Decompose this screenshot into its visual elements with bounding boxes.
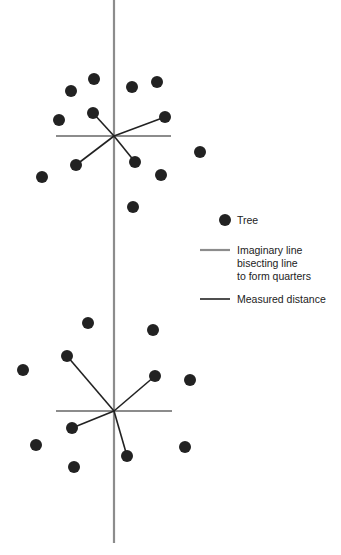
sampling-points <box>17 73 206 473</box>
measured-distance-line <box>72 411 114 428</box>
legend-bisecting-label-3: to form quarters <box>237 270 311 282</box>
tree-icon <box>36 171 48 183</box>
tree-icon <box>82 317 94 329</box>
point-centered-quarter-diagram: Tree Imaginary line bisecting line to fo… <box>0 0 341 555</box>
tree-icon <box>30 439 42 451</box>
tree-icon <box>66 422 78 434</box>
tree-icon <box>53 114 65 126</box>
tree-icon <box>159 111 171 123</box>
tree-icon <box>151 76 163 88</box>
tree-icon <box>88 73 100 85</box>
tree-icon <box>68 461 80 473</box>
tree-icon <box>149 370 161 382</box>
measured-distance-line <box>76 136 114 165</box>
legend: Tree Imaginary line bisecting line to fo… <box>200 214 326 305</box>
tree-icon <box>155 169 167 181</box>
tree-icon <box>127 201 139 213</box>
tree-icon <box>65 85 77 97</box>
tree-icon <box>17 364 29 376</box>
legend-bisecting-label-1: Imaginary line <box>237 244 303 256</box>
legend-bisecting-label-2: bisecting line <box>237 257 298 269</box>
legend-measured-label: Measured distance <box>237 293 326 305</box>
tree-icon <box>184 374 196 386</box>
sampling-point-2 <box>17 317 196 473</box>
sampling-point-1 <box>36 73 206 213</box>
measured-distance-line <box>114 376 155 411</box>
tree-icon <box>147 324 159 336</box>
tree-icon <box>87 107 99 119</box>
legend-tree-label: Tree <box>237 214 258 226</box>
tree-icon <box>194 146 206 158</box>
measured-distance-line <box>114 117 165 136</box>
measured-distance-line <box>67 356 114 411</box>
measured-distance-line <box>114 411 127 456</box>
tree-icon <box>61 350 73 362</box>
legend-tree-icon <box>219 214 231 226</box>
tree-icon <box>179 441 191 453</box>
tree-icon <box>129 156 141 168</box>
tree-icon <box>121 450 133 462</box>
tree-icon <box>126 81 138 93</box>
tree-icon <box>70 159 82 171</box>
